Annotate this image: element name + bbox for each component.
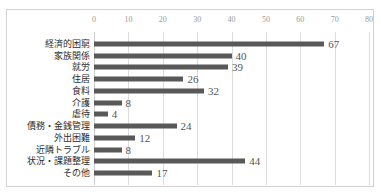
bar-value-label: 12 (139, 132, 150, 143)
bar-value-label: 24 (181, 121, 192, 132)
bar-value-label: 40 (236, 50, 247, 61)
category-label: 食料 (72, 86, 90, 95)
x-tick-label: 20 (159, 15, 167, 24)
chart-row: 経済的困窮67 (94, 38, 369, 50)
category-label: 経済的困窮 (45, 39, 90, 48)
category-label: その他 (63, 169, 90, 178)
bar-value-label: 8 (126, 97, 132, 108)
bar (94, 159, 245, 164)
chart-row: その他17 (94, 167, 369, 179)
plot-area: 経済的困窮67家族関係40就労39住居26食料32介護8虐待4債務・金銭管理24… (94, 32, 369, 185)
bar (94, 112, 108, 117)
category-label: 状況・課題整理 (27, 157, 90, 166)
bar-value-label: 39 (232, 62, 243, 73)
bar-value-label: 26 (187, 74, 198, 85)
category-label: 住居 (72, 75, 90, 84)
bar-value-label: 4 (112, 109, 118, 120)
gridline (369, 32, 370, 185)
x-tick-label: 10 (124, 15, 132, 24)
chart-row: 家族関係40 (94, 50, 369, 62)
x-tick-label: 40 (228, 15, 236, 24)
bar-value-label: 8 (126, 144, 132, 155)
x-tick-label: 30 (193, 15, 201, 24)
category-label: 債務・金銭管理 (27, 122, 90, 131)
bar (94, 171, 152, 176)
chart-row: 食料32 (94, 85, 369, 97)
chart-title-strip (0, 0, 381, 7)
bar (94, 88, 204, 93)
x-tick-label: 0 (92, 15, 96, 24)
category-label: 就労 (72, 63, 90, 72)
x-tick-label: 60 (296, 15, 304, 24)
chart-row: 虐待4 (94, 109, 369, 121)
chart-row: 介護8 (94, 97, 369, 109)
category-label: 外出困難 (54, 133, 90, 142)
x-tick-label: 50 (262, 15, 270, 24)
bar (94, 53, 232, 58)
bar (94, 65, 228, 70)
x-axis-tick-labels: 01020304050607080 (7, 10, 375, 32)
bar (94, 77, 183, 82)
bar (94, 41, 324, 46)
bar-value-label: 17 (156, 168, 167, 179)
chart-row: 状況・課題整理44 (94, 156, 369, 168)
x-tick-label: 80 (365, 15, 373, 24)
x-tick-label: 70 (331, 15, 339, 24)
bar (94, 147, 122, 152)
category-label: 介護 (72, 98, 90, 107)
bar-value-label: 44 (249, 156, 260, 167)
bar-value-label: 67 (328, 38, 339, 49)
chart-row: 住居26 (94, 73, 369, 85)
category-label: 虐待 (72, 110, 90, 119)
chart-row: 外出困難12 (94, 132, 369, 144)
chart-row: 債務・金銭管理24 (94, 120, 369, 132)
chart-row: 就労39 (94, 61, 369, 73)
bar (94, 124, 177, 129)
category-label: 近隣トラブル (36, 145, 90, 154)
category-label: 家族関係 (54, 51, 90, 60)
chart-row: 近隣トラブル8 (94, 144, 369, 156)
bar (94, 135, 135, 140)
bar-value-label: 32 (208, 85, 219, 96)
chart-frame: 01020304050607080 経済的困窮67家族関係40就労39住居26食… (6, 9, 374, 187)
bar (94, 100, 122, 105)
